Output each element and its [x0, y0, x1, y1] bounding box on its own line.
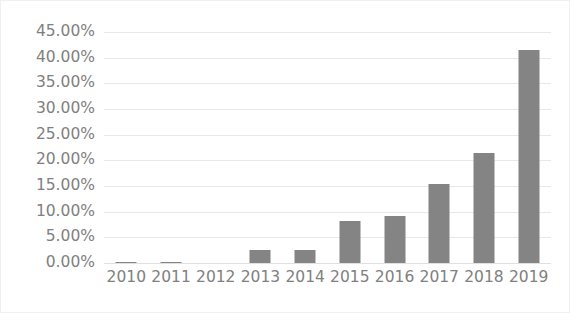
bar-slot — [104, 32, 149, 263]
bar[interactable] — [116, 262, 137, 263]
y-axis-tick-label: 15.00% — [9, 178, 95, 194]
bar-slot — [417, 32, 462, 263]
y-axis-tick-label: 20.00% — [9, 153, 95, 169]
bar[interactable] — [473, 153, 494, 263]
x-axis: 2010201120122013201420152016201720182019 — [104, 267, 551, 297]
y-axis-tick-label: 10.00% — [9, 204, 95, 220]
y-axis-tick-label: 0.00% — [9, 255, 95, 271]
x-axis-tick-label: 2018 — [464, 267, 503, 289]
bar-slot — [462, 32, 507, 263]
x-axis-tick-label: 2012 — [196, 267, 235, 289]
y-axis: 0.00%5.00%10.00%15.00%20.00%25.00%30.00%… — [9, 32, 95, 263]
bar[interactable] — [161, 262, 182, 263]
gridline — [104, 263, 551, 264]
bar[interactable] — [429, 184, 450, 263]
bar-slot — [149, 32, 194, 263]
bar[interactable] — [518, 50, 539, 263]
x-axis-tick-label: 2015 — [330, 267, 369, 289]
bar-slot — [328, 32, 373, 263]
y-axis-tick-label: 45.00% — [9, 24, 95, 40]
bars-layer — [104, 32, 551, 263]
bar-slot — [372, 32, 417, 263]
x-axis-tick-label: 2016 — [375, 267, 414, 289]
x-axis-tick-label: 2017 — [420, 267, 459, 289]
y-axis-tick-label: 5.00% — [9, 230, 95, 246]
y-axis-tick-label: 25.00% — [9, 127, 95, 143]
y-axis-tick-label: 30.00% — [9, 101, 95, 117]
y-axis-tick-label: 35.00% — [9, 76, 95, 92]
bar-slot — [238, 32, 283, 263]
bar-slot — [283, 32, 328, 263]
bar[interactable] — [250, 250, 271, 263]
x-axis-tick-label: 2019 — [509, 267, 548, 289]
x-axis-tick-label: 2010 — [107, 267, 146, 289]
bar[interactable] — [339, 221, 360, 263]
x-axis-tick-label: 2013 — [241, 267, 280, 289]
bar-chart: 0.00%5.00%10.00%15.00%20.00%25.00%30.00%… — [0, 0, 570, 313]
x-axis-tick-label: 2011 — [151, 267, 190, 289]
bar-slot — [193, 32, 238, 263]
bar[interactable] — [384, 216, 405, 263]
y-axis-tick-label: 40.00% — [9, 50, 95, 66]
bar[interactable] — [295, 250, 316, 263]
bar-slot — [506, 32, 551, 263]
x-axis-tick-label: 2014 — [285, 267, 324, 289]
